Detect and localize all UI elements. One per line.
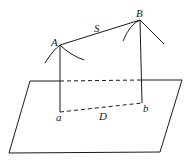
- label-span-s: S: [94, 22, 100, 34]
- span-line-s: [60, 20, 140, 45]
- label-foot-b: b: [143, 102, 149, 114]
- tower-b-vertical: [140, 20, 142, 103]
- peak-a-right-curve: [60, 45, 84, 60]
- peak-b-right-curve: [140, 20, 164, 44]
- ground-plane: [9, 80, 182, 153]
- label-point-a: A: [50, 36, 58, 48]
- plane-hidden-edge: [60, 80, 142, 81]
- label-foot-a: a: [56, 111, 62, 123]
- span-diagram: A B S a b D: [0, 0, 189, 167]
- label-point-b: B: [136, 7, 143, 19]
- label-horizontal-d: D: [98, 110, 107, 122]
